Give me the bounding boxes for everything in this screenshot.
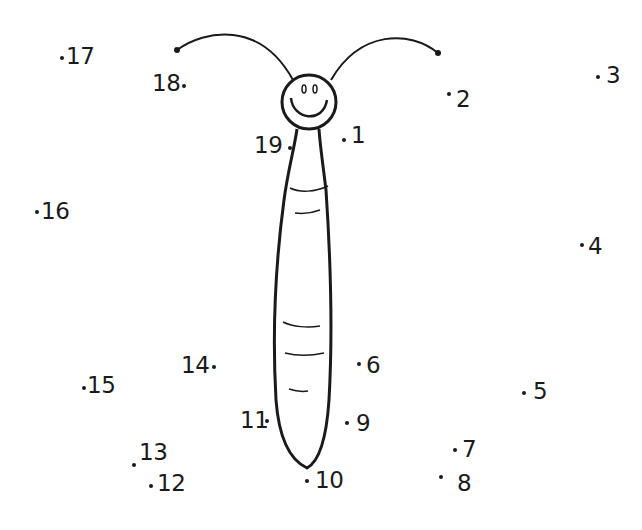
dot-label-2: 2 — [456, 88, 470, 111]
left-eye — [302, 85, 306, 93]
smile — [291, 98, 327, 116]
dot-point-5 — [522, 391, 526, 395]
dot-label-11: 11 — [240, 409, 268, 432]
dot-point-10 — [305, 479, 309, 483]
dot-point-2 — [447, 92, 451, 96]
dot-point-1 — [342, 138, 346, 142]
dot-point-17 — [60, 56, 64, 60]
dot-point-13 — [132, 463, 136, 467]
dot-point-19 — [288, 146, 292, 150]
dot-label-16: 16 — [41, 200, 69, 223]
body-stripe — [290, 186, 328, 191]
right-antenna — [331, 38, 438, 80]
dot-label-5: 5 — [533, 380, 547, 403]
dot-point-14 — [212, 365, 216, 369]
dot-label-13: 13 — [139, 441, 167, 464]
dot-label-10: 10 — [315, 469, 343, 492]
left-antenna — [177, 35, 293, 80]
dot-point-12 — [149, 484, 153, 488]
right-eye — [313, 85, 317, 93]
dot-label-1: 1 — [351, 124, 365, 147]
dot-label-4: 4 — [588, 235, 602, 258]
dot-label-14: 14 — [181, 354, 209, 377]
body-stripe — [295, 210, 320, 213]
dot-label-6: 6 — [366, 354, 380, 377]
dot-label-19: 19 — [254, 134, 282, 157]
body-stripe — [285, 353, 324, 355]
dot-point-6 — [357, 362, 361, 366]
dot-label-12: 12 — [157, 472, 185, 495]
left-antenna-tip — [174, 47, 180, 53]
dot-label-3: 3 — [606, 64, 620, 87]
dot-point-3 — [596, 75, 600, 79]
butterfly-body-drawing — [0, 0, 642, 530]
dot-point-9 — [345, 421, 349, 425]
dot-point-7 — [453, 448, 457, 452]
dot-label-8: 8 — [457, 472, 471, 495]
body-stripe — [289, 389, 308, 391]
dot-label-7: 7 — [462, 438, 476, 461]
body-stripe — [283, 322, 320, 327]
dot-label-9: 9 — [356, 412, 370, 435]
dot-to-dot-worksheet: 12345678910111213141516171819 — [0, 0, 642, 530]
dot-label-15: 15 — [87, 374, 115, 397]
dot-label-18: 18 — [152, 72, 180, 95]
dot-point-16 — [35, 210, 39, 214]
dot-label-17: 17 — [66, 45, 94, 68]
head — [282, 75, 336, 129]
dot-point-15 — [82, 386, 86, 390]
dot-point-4 — [580, 243, 584, 247]
right-antenna-tip — [435, 50, 441, 56]
dot-point-18 — [182, 84, 186, 88]
dot-point-8 — [439, 475, 443, 479]
body — [274, 129, 330, 468]
